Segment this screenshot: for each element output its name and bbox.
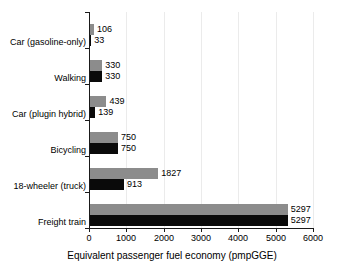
x-axis-tick-2000	[164, 228, 165, 232]
bar-value-gray-3: 750	[121, 133, 136, 142]
bar-value-black-4: 913	[127, 180, 142, 189]
bar-value-gray-2: 439	[109, 97, 124, 106]
bar-gray-1[interactable]	[90, 60, 102, 71]
bar-value-black-5: 5297	[291, 216, 311, 225]
bar-black-5[interactable]	[90, 215, 288, 226]
x-tick-label-1: 1000	[116, 234, 136, 243]
gridline-5000	[276, 12, 277, 228]
bar-gray-3[interactable]	[90, 132, 118, 143]
bar-value-black-1: 330	[105, 72, 120, 81]
bar-value-gray-5: 5297	[291, 205, 311, 214]
gridline-3000	[201, 12, 202, 228]
gridline-4000	[238, 12, 239, 228]
x-axis-tick-3000	[201, 228, 202, 232]
x-tick-label-6: 6000	[303, 234, 323, 243]
y-axis-category-labels: Car (gasoline-only) Walking Car (plugin …	[0, 12, 86, 228]
y-axis-tick-1	[85, 48, 90, 49]
bar-gray-5[interactable]	[90, 204, 288, 215]
y-axis-label-3: Bicycling	[0, 145, 86, 155]
bar-value-black-3: 750	[121, 144, 136, 153]
x-axis-tick-5000	[276, 228, 277, 232]
x-axis-tick-labels: 0 1000 2000 3000 4000 5000 6000	[89, 234, 313, 246]
gridline-2000	[164, 12, 165, 228]
y-axis-tick-2	[85, 84, 90, 85]
y-axis-label-1: Walking	[0, 73, 86, 83]
bar-black-1[interactable]	[90, 71, 102, 82]
x-tick-label-4: 4000	[228, 234, 248, 243]
bar-black-0[interactable]	[90, 35, 91, 46]
y-axis-tick-5	[85, 192, 90, 193]
bar-value-gray-1: 330	[105, 61, 120, 70]
bar-value-gray-4: 1827	[161, 169, 181, 178]
y-axis-label-4: 18-wheeler (truck)	[0, 181, 86, 191]
bar-gray-4[interactable]	[90, 168, 158, 179]
y-axis-label-0: Car (gasoline-only)	[0, 37, 86, 47]
y-axis-label-5: Freight train	[0, 217, 86, 227]
bar-value-gray-0: 106	[97, 25, 112, 34]
x-axis-tick-1000	[126, 228, 127, 232]
bar-value-black-2: 139	[98, 108, 113, 117]
x-tick-label-0: 0	[86, 234, 91, 243]
x-axis-title: Equivalent passenger fuel economy (pmpGG…	[0, 250, 344, 262]
x-axis-tick-0	[89, 228, 90, 232]
bar-black-2[interactable]	[90, 107, 95, 118]
bar-gray-0[interactable]	[90, 24, 94, 35]
x-tick-label-2: 2000	[154, 234, 174, 243]
y-axis-tick-3	[85, 120, 90, 121]
bar-value-black-0: 33	[94, 36, 104, 45]
chart-container: Car (gasoline-only) Walking Car (plugin …	[0, 0, 344, 269]
gridline-6000	[313, 12, 314, 228]
y-axis-tick-4	[85, 156, 90, 157]
bar-gray-2[interactable]	[90, 96, 106, 107]
x-tick-label-3: 3000	[191, 234, 211, 243]
x-axis-tick-6000	[313, 228, 314, 232]
y-axis-label-2: Car (plugin hybrid)	[0, 109, 86, 119]
bar-black-3[interactable]	[90, 143, 118, 154]
plot-area: 106 33 330 330 439 139 750 750 1827 913 …	[89, 12, 313, 228]
x-tick-label-5: 5000	[266, 234, 286, 243]
y-axis-tick-0	[85, 12, 90, 13]
x-axis-tick-4000	[238, 228, 239, 232]
gridline-1000	[126, 12, 127, 228]
bar-black-4[interactable]	[90, 179, 124, 190]
